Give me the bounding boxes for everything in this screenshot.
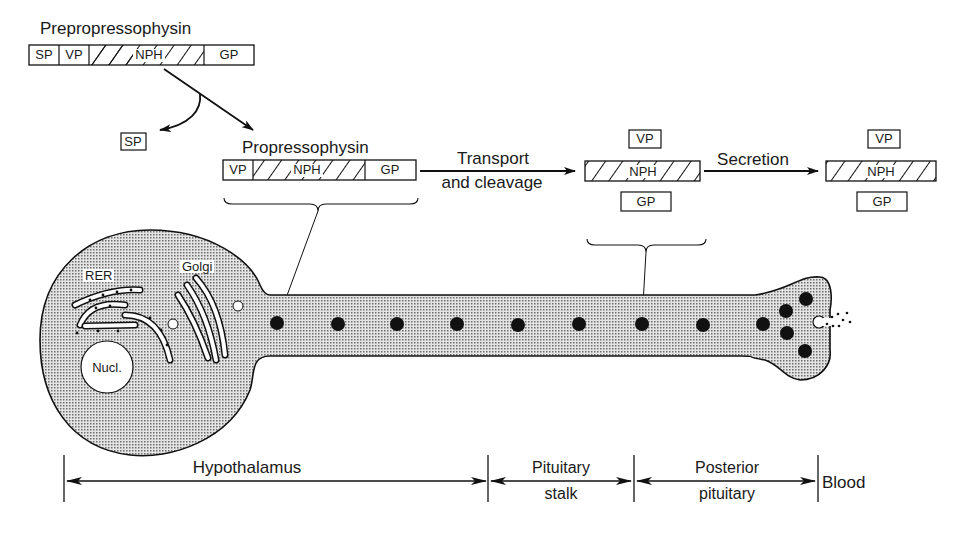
- region-posterior-line2: pituitary: [699, 486, 755, 502]
- propressophysin-title: Propressophysin: [242, 139, 369, 156]
- prepropressophysin-title: Prepropressophysin: [40, 20, 191, 37]
- pro-segment-vp: VP: [229, 163, 246, 176]
- secretion-label: Secretion: [717, 151, 789, 168]
- cleaved-nph-label: NPH: [629, 165, 656, 178]
- cleaved-gp-label: GP: [637, 195, 656, 208]
- signal-peptide-label: SP: [124, 135, 141, 148]
- region-hypothalamus: Hypothalamus: [193, 459, 302, 476]
- transport-label-line1: Transport: [457, 150, 529, 167]
- processing-arrow: [164, 69, 253, 130]
- neuron: [40, 230, 851, 456]
- brace-stalk: [587, 239, 706, 252]
- secreted-vp-label: VP: [875, 132, 892, 145]
- segment-sp: SP: [35, 48, 52, 61]
- pro-segment-nph: NPH: [293, 163, 320, 176]
- signal-cleavage-arrow: [160, 94, 200, 130]
- segment-gp: GP: [220, 48, 239, 61]
- region-posterior-line1: Posterior: [695, 460, 759, 476]
- region-stalk-line2: stalk: [545, 486, 578, 502]
- region-stalk-line1: Pituitary: [532, 460, 590, 476]
- segment-nph: NPH: [135, 48, 162, 61]
- secreted-nph-label: NPH: [867, 165, 894, 178]
- rer-label: RER: [83, 269, 114, 282]
- golgi-label: Golgi: [180, 260, 214, 273]
- cleaved-vp-label: VP: [636, 132, 653, 145]
- transport-label-line2: and cleavage: [441, 174, 542, 191]
- nucleus-label: Nucl.: [92, 361, 122, 374]
- region-blood: Blood: [822, 474, 865, 491]
- pro-segment-gp: GP: [381, 163, 400, 176]
- segment-vp: VP: [65, 48, 82, 61]
- brace-soma: [224, 198, 418, 211]
- secreted-gp-label: GP: [873, 195, 892, 208]
- diagram-canvas: [0, 0, 980, 542]
